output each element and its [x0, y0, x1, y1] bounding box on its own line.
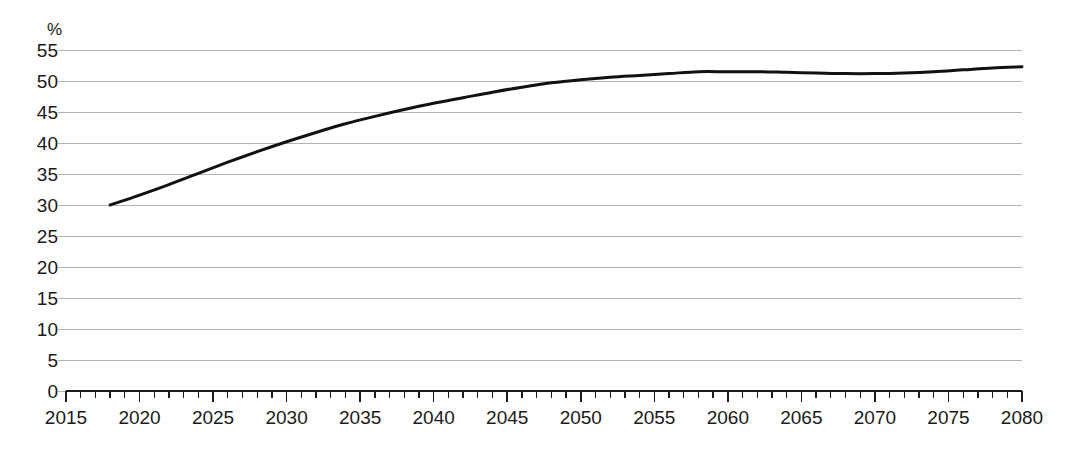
x-axis-tick-label: 2065	[780, 407, 822, 428]
x-axis-tick-label: 2055	[633, 407, 675, 428]
chart-canvas: 0510152025303540455055 % 201520202025203…	[0, 0, 1067, 461]
gridlines	[58, 50, 1022, 391]
y-axis-tick-labels: 0510152025303540455055	[37, 40, 58, 402]
y-axis-tick-label: 20	[37, 257, 58, 278]
x-axis-tick-label: 2025	[192, 407, 234, 428]
y-axis-tick-label: 30	[37, 195, 58, 216]
x-axis-tick-label: 2080	[1001, 407, 1043, 428]
x-axis-tick-label: 2035	[339, 407, 381, 428]
y-axis-tick-label: 55	[37, 40, 58, 61]
y-axis-tick-label: 40	[37, 133, 58, 154]
x-axis-tick-label: 2070	[854, 407, 896, 428]
y-axis-tick-label: 35	[37, 164, 58, 185]
y-axis-tick-label: 15	[37, 288, 58, 309]
data-series-line	[110, 67, 1022, 205]
x-axis-tick-label: 2050	[560, 407, 602, 428]
x-axis-tick-label: 2030	[265, 407, 307, 428]
y-axis-tick-label: 45	[37, 102, 58, 123]
x-axis-tick-label: 2040	[413, 407, 455, 428]
x-axis	[66, 391, 1022, 402]
y-axis-tick-label: 50	[37, 71, 58, 92]
x-axis-tick-label: 2075	[927, 407, 969, 428]
x-axis-tick-labels: 2015202020252030203520402045205020552060…	[45, 407, 1043, 428]
y-axis-unit-label: %	[47, 20, 62, 39]
y-axis-tick-label: 5	[47, 350, 58, 371]
y-axis-tick-label: 25	[37, 226, 58, 247]
x-axis-tick-label: 2060	[707, 407, 749, 428]
x-axis-tick-label: 2020	[118, 407, 160, 428]
line-chart: 0510152025303540455055 % 201520202025203…	[0, 0, 1067, 461]
y-axis-tick-label: 10	[37, 319, 58, 340]
x-axis-tick-label: 2015	[45, 407, 87, 428]
x-axis-tick-label: 2045	[486, 407, 528, 428]
y-axis-tick-label: 0	[47, 381, 58, 402]
